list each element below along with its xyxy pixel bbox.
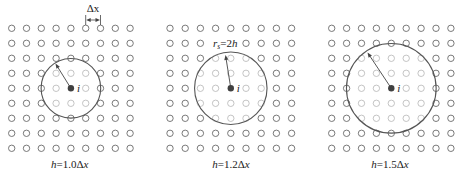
grid-node bbox=[112, 85, 118, 91]
grid-node bbox=[273, 130, 279, 136]
grid-node bbox=[53, 40, 59, 46]
grid-node-inside bbox=[403, 100, 409, 106]
grid-node bbox=[358, 25, 364, 31]
grid-node bbox=[403, 145, 409, 151]
grid-node bbox=[182, 130, 188, 136]
grid-node bbox=[343, 40, 349, 46]
grid-node bbox=[53, 55, 59, 61]
grid-node bbox=[127, 85, 133, 91]
caption-var-x: x bbox=[403, 158, 409, 170]
grid-node-inside bbox=[83, 70, 89, 76]
grid-node bbox=[418, 25, 424, 31]
grid-node bbox=[23, 100, 29, 106]
grid-node bbox=[127, 145, 133, 151]
grid-node bbox=[448, 55, 454, 61]
grid-node-inside bbox=[403, 115, 409, 121]
grid-node bbox=[127, 115, 133, 121]
grid-node bbox=[273, 85, 279, 91]
grid-node-inside bbox=[358, 115, 364, 121]
grid-node bbox=[418, 40, 424, 46]
grid-node bbox=[97, 25, 103, 31]
grid-node bbox=[9, 85, 15, 91]
grid-node bbox=[182, 100, 188, 106]
grid-node bbox=[112, 25, 118, 31]
grid-node bbox=[258, 115, 264, 121]
grid-node bbox=[23, 55, 29, 61]
grid-node bbox=[112, 40, 118, 46]
grid-node bbox=[343, 130, 349, 136]
grid-node-inside bbox=[373, 115, 379, 121]
grid-node bbox=[243, 25, 249, 31]
grid-node bbox=[112, 130, 118, 136]
grid-node bbox=[258, 145, 264, 151]
grid-node bbox=[68, 130, 74, 136]
grid-node bbox=[83, 55, 89, 61]
grid-node bbox=[127, 25, 133, 31]
grid-node-inside bbox=[258, 85, 264, 91]
grid-node bbox=[23, 25, 29, 31]
grid-node bbox=[197, 55, 203, 61]
grid-node bbox=[212, 130, 218, 136]
grid-node bbox=[288, 100, 294, 106]
grid-node bbox=[127, 100, 133, 106]
grid-node-inside bbox=[68, 70, 74, 76]
grid-node-inside bbox=[243, 100, 249, 106]
grid-node bbox=[127, 70, 133, 76]
grid-node-inside bbox=[373, 70, 379, 76]
grid-node bbox=[167, 25, 173, 31]
grid-node bbox=[167, 145, 173, 151]
grid-node bbox=[433, 25, 439, 31]
grid-node bbox=[343, 25, 349, 31]
grid-node bbox=[388, 25, 394, 31]
grid-node bbox=[97, 115, 103, 121]
grid-node bbox=[38, 25, 44, 31]
grid-node bbox=[329, 145, 335, 151]
grid-node bbox=[167, 130, 173, 136]
center-particle bbox=[68, 85, 74, 91]
grid-node-inside bbox=[418, 115, 424, 121]
grid-node bbox=[9, 70, 15, 76]
grid-node-inside bbox=[418, 70, 424, 76]
grid-node bbox=[258, 40, 264, 46]
grid-node bbox=[448, 25, 454, 31]
grid-node bbox=[329, 40, 335, 46]
grid-node-inside bbox=[358, 85, 364, 91]
grid-node bbox=[388, 145, 394, 151]
grid-node bbox=[329, 70, 335, 76]
grid-node-inside bbox=[212, 100, 218, 106]
grid-node bbox=[83, 145, 89, 151]
grid-node bbox=[329, 115, 335, 121]
grid-node bbox=[343, 145, 349, 151]
grid-node bbox=[38, 40, 44, 46]
grid-node bbox=[288, 145, 294, 151]
grid-node-inside bbox=[373, 55, 379, 61]
grid-node bbox=[273, 40, 279, 46]
center-particle-label: i bbox=[397, 82, 400, 94]
grid-node bbox=[97, 130, 103, 136]
grid-node bbox=[197, 145, 203, 151]
grid-node-inside bbox=[83, 100, 89, 106]
grid-node bbox=[228, 130, 234, 136]
panel-caption: h=1.2Δx bbox=[212, 158, 250, 170]
grid-node bbox=[23, 40, 29, 46]
grid-node bbox=[258, 130, 264, 136]
grid-node-inside bbox=[212, 85, 218, 91]
grid-node-inside bbox=[418, 100, 424, 106]
grid-node bbox=[329, 55, 335, 61]
grid-node-inside bbox=[388, 70, 394, 76]
grid-node bbox=[258, 25, 264, 31]
grid-node bbox=[23, 85, 29, 91]
grid-node bbox=[167, 70, 173, 76]
grid-node bbox=[9, 55, 15, 61]
grid-node bbox=[448, 145, 454, 151]
grid-node bbox=[288, 40, 294, 46]
spacing-label: Δx bbox=[87, 2, 100, 14]
grid-node bbox=[433, 55, 439, 61]
grid-node-inside bbox=[373, 85, 379, 91]
grid-node bbox=[167, 100, 173, 106]
grid-node-inside bbox=[388, 115, 394, 121]
center-particle-label: i bbox=[77, 82, 80, 94]
grid-node bbox=[448, 130, 454, 136]
grid-node bbox=[9, 145, 15, 151]
grid-node bbox=[329, 130, 335, 136]
